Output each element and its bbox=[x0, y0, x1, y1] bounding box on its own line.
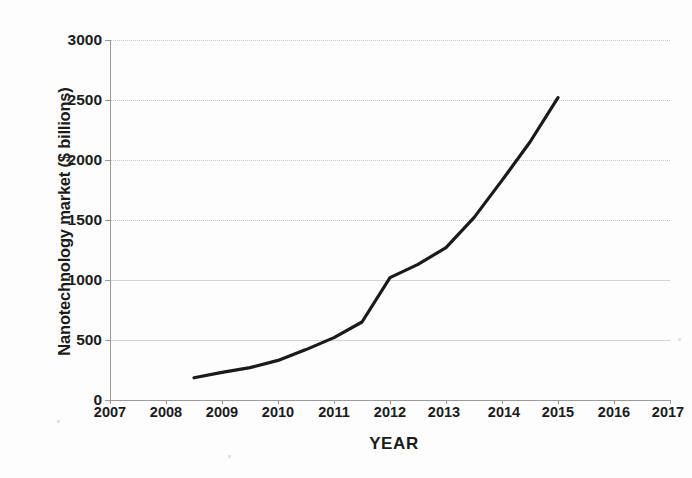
y-tick-label-1000: 1000 bbox=[68, 271, 102, 289]
y-tick-label-2500: 2500 bbox=[68, 91, 102, 109]
x-tick-label-2014: 2014 bbox=[488, 404, 520, 420]
chart-figure: Nanotechnology market ($ billions) 3000 … bbox=[0, 0, 692, 478]
x-axis-title: YEAR bbox=[0, 434, 692, 454]
plot-area bbox=[110, 40, 670, 400]
x-tick-label-2012: 2012 bbox=[374, 404, 406, 420]
x-tick-label-2008: 2008 bbox=[150, 404, 182, 420]
x-tick-label-2013: 2013 bbox=[428, 404, 460, 420]
x-tick-label-2010: 2010 bbox=[262, 404, 294, 420]
data-series-line bbox=[110, 40, 670, 400]
scan-speck bbox=[57, 420, 60, 423]
y-tick-label-1500: 1500 bbox=[68, 211, 102, 229]
x-tick-label-2016: 2016 bbox=[598, 404, 630, 420]
scan-speck bbox=[228, 455, 231, 458]
x-tick-label-2009: 2009 bbox=[206, 404, 238, 420]
y-tick-label-500: 500 bbox=[76, 331, 102, 349]
y-tick-label-3000: 3000 bbox=[68, 31, 102, 49]
x-tick-label-2015: 2015 bbox=[542, 404, 574, 420]
scan-speck bbox=[678, 338, 681, 341]
y-axis-tick-labels: 3000 2500 2000 1500 1000 500 0 bbox=[40, 40, 102, 400]
y-tick-label-2000: 2000 bbox=[68, 151, 102, 169]
nanotechnology-market-line bbox=[194, 98, 558, 378]
x-tick-label-2017: 2017 bbox=[652, 404, 684, 420]
x-axis-title-text: YEAR bbox=[369, 434, 419, 453]
x-tick-label-2007: 2007 bbox=[94, 404, 126, 420]
x-tick-label-2011: 2011 bbox=[318, 404, 349, 420]
